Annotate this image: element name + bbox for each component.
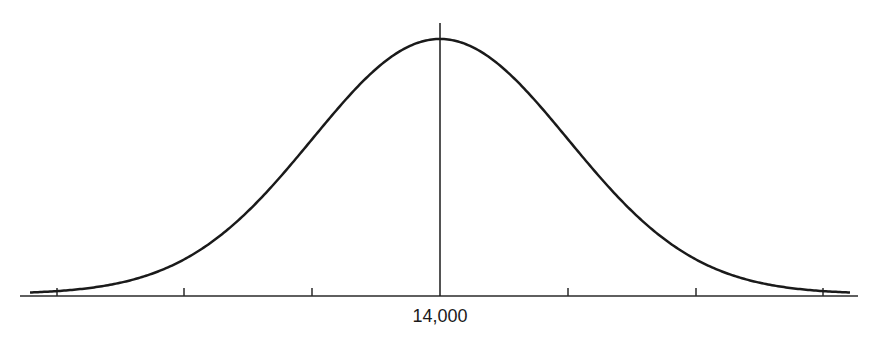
bell-curve-diagram <box>0 0 873 343</box>
mean-label: 14,000 <box>412 306 467 327</box>
